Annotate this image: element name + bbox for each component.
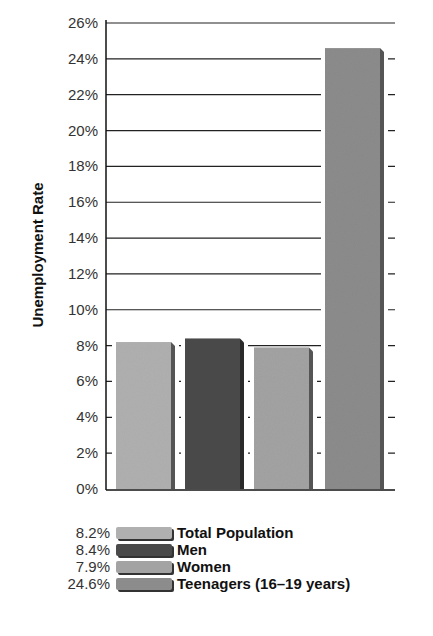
y-tick-label: 4% <box>76 408 98 425</box>
bar <box>112 342 179 489</box>
y-tick-label: 20% <box>68 122 98 139</box>
y-tick-label: 10% <box>68 301 98 318</box>
y-tick-label: 26% <box>68 14 98 31</box>
bar <box>181 338 248 489</box>
y-tick-labels: 0%2%4%6%8%10%12%14%16%18%20%22%24%26% <box>68 14 98 497</box>
y-tick-label: 16% <box>68 193 98 210</box>
y-tick-label: 22% <box>68 86 98 103</box>
bar <box>250 347 317 489</box>
legend-label: Women <box>177 558 231 575</box>
y-tick-label: 8% <box>76 337 98 354</box>
legend-swatch <box>116 544 172 556</box>
bars <box>112 48 388 489</box>
legend-value: 8.2% <box>0 524 110 541</box>
legend-item: 7.9%Women <box>0 558 433 575</box>
y-tick-label: 12% <box>68 265 98 282</box>
y-tick-label: 18% <box>68 157 98 174</box>
legend-item: 8.2%Total Population <box>0 524 433 541</box>
legend-value: 24.6% <box>0 575 110 592</box>
legend-label: Teenagers (16–19 years) <box>177 575 350 592</box>
y-tick-label: 6% <box>76 372 98 389</box>
legend-item: 8.4%Men <box>0 541 433 558</box>
y-tick-label: 14% <box>68 229 98 246</box>
y-tick-label: 24% <box>68 50 98 67</box>
y-tick-label: 0% <box>76 480 98 497</box>
legend-swatch <box>116 578 172 590</box>
legend-label: Total Population <box>177 524 293 541</box>
y-tick-label: 2% <box>76 444 98 461</box>
bar <box>321 48 388 489</box>
legend-value: 7.9% <box>0 558 110 575</box>
y-axis-label: Unemployment Rate <box>29 182 46 327</box>
legend-swatch <box>116 561 172 573</box>
legend-label: Men <box>177 541 207 558</box>
legend-value: 8.4% <box>0 541 110 558</box>
legend-swatch <box>116 527 172 539</box>
legend-item: 24.6%Teenagers (16–19 years) <box>0 575 433 592</box>
